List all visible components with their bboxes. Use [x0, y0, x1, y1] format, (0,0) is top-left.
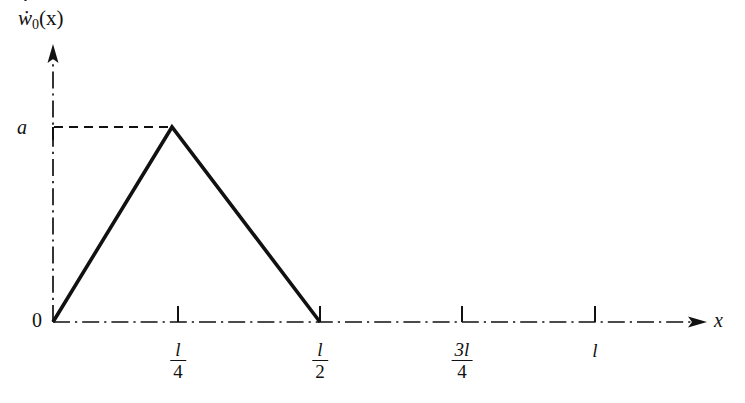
velocity-profile-curve — [53, 127, 320, 322]
x-axis-label: x — [714, 310, 723, 330]
x-tick-label-full-l: l — [592, 340, 597, 362]
y-axis-label-symbol: ẇ — [18, 6, 32, 30]
velocity-profile-figure — [0, 0, 745, 403]
y-axis-label: ẇ0(x) — [18, 8, 64, 32]
x-tick-label-three-quarter-l: 3l 4 — [452, 340, 473, 382]
fraction-numerator: 3l — [452, 340, 473, 360]
fraction-denominator: 2 — [312, 360, 328, 381]
origin-label: 0 — [32, 310, 42, 330]
fraction-denominator: 4 — [170, 360, 186, 381]
fraction-numerator: l — [312, 340, 328, 360]
w-dot-glyph: ẇ — [18, 8, 32, 29]
fraction-denominator: 4 — [452, 360, 473, 381]
x-tick-label-quarter-l: l 4 — [170, 340, 186, 382]
x-tick-label-half-l: l 2 — [312, 340, 328, 382]
y-axis-label-argument: (x) — [39, 6, 64, 30]
fraction-numerator: l — [170, 340, 186, 360]
y-value-label-a: a — [17, 117, 27, 137]
y-axis-arrowhead — [48, 44, 59, 63]
y-axis-label-subscript: 0 — [32, 17, 39, 32]
x-axis-arrowhead — [688, 317, 707, 328]
